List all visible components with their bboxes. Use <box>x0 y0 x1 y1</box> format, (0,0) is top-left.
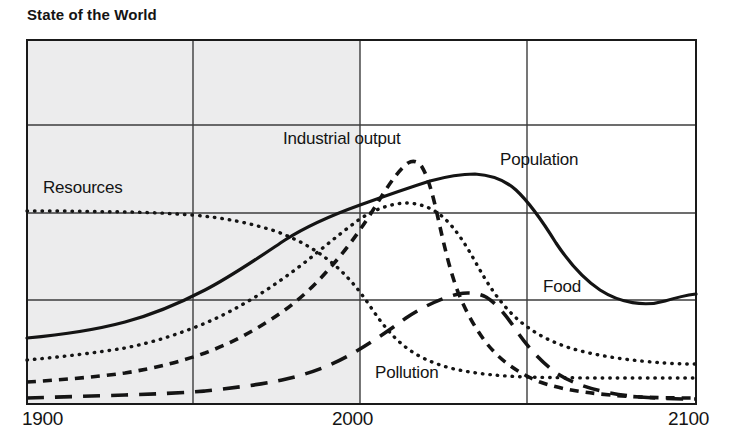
x-axis-tick-2100: 2100 <box>668 408 709 430</box>
series-label-resources: Resources <box>43 178 122 198</box>
series-label-pollution: Pollution <box>375 363 438 383</box>
plot-area <box>0 0 736 445</box>
series-label-population: Population <box>500 150 578 170</box>
x-axis-tick-2000: 2000 <box>332 408 373 430</box>
plot-background-future <box>360 40 696 404</box>
series-label-food: Food <box>543 277 581 297</box>
x-axis-tick-1900: 1900 <box>22 408 63 430</box>
chart-figure: State of the World <box>0 0 736 445</box>
series-label-industrial-output: Industrial output <box>283 129 401 149</box>
